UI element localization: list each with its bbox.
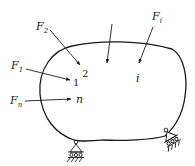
support-left: [67, 140, 84, 162]
f2-label: F2: [35, 20, 49, 35]
point-n-label: n: [76, 93, 83, 106]
point-2-label: 2: [82, 68, 88, 79]
point-1-label: 1: [73, 77, 79, 88]
fi-label: Fi: [151, 10, 162, 25]
support-right: [157, 124, 183, 151]
body-boundary: [40, 42, 186, 141]
point-i-label: i: [136, 72, 140, 85]
force-fi: Fi i: [136, 10, 162, 85]
force-unlabeled: [107, 24, 112, 63]
fn-label: Fn: [9, 94, 23, 109]
force-fn: Fn n: [9, 93, 83, 109]
elastic-body-diagram: F2 2 F1 1 Fn n Fi i: [0, 0, 195, 166]
f1-label: F1: [10, 59, 23, 74]
force-f1: F1 1: [10, 59, 79, 88]
